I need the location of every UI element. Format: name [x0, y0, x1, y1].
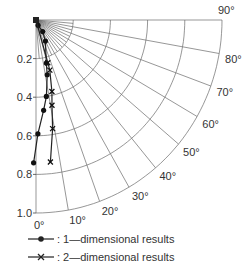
angular-tick-label: 80° — [225, 53, 242, 65]
dot-marker-icon — [40, 29, 45, 34]
radial-tick-label: 0.6 — [17, 130, 32, 142]
angular-tick-label: 10° — [69, 214, 86, 226]
angular-tick-label: 70° — [216, 86, 233, 98]
radial-tick-label: 1.0 — [17, 207, 32, 219]
dot-marker-icon — [43, 38, 48, 43]
angular-tick-label: 30° — [132, 190, 149, 202]
angular-tick-label: 50° — [183, 146, 200, 158]
angular-tick-label: 60° — [202, 118, 219, 130]
legend-label-1d: : 1—dimensional results — [57, 233, 174, 245]
legend-label-2d: : 2—dimensional results — [57, 251, 174, 263]
dot-marker-icon — [44, 94, 49, 99]
dot-marker-icon — [28, 234, 54, 244]
angular-tick-label: 40° — [159, 170, 176, 182]
angular-tick-label: 20° — [102, 205, 119, 217]
dot-marker-icon — [31, 160, 36, 165]
radial-tick-label: 0.4 — [17, 91, 32, 103]
angular-spoke — [36, 20, 178, 144]
polar-grid — [33, 17, 222, 213]
legend-item-1d: : 1—dimensional results — [28, 233, 174, 245]
radial-tick-label: 0.8 — [17, 168, 32, 180]
dot-marker-icon — [45, 72, 50, 77]
angular-tick-label: 90° — [218, 4, 235, 16]
radial-tick-label: 0.2 — [17, 53, 32, 65]
x-marker-icon — [28, 252, 54, 262]
angular-tick-label: 0° — [34, 219, 45, 231]
legend-item-2d: : 2—dimensional results — [28, 251, 174, 263]
data-series — [31, 20, 55, 165]
polar-chart: 0.20.40.60.81.00°10°20°30°40°50°60°70°80… — [0, 0, 251, 270]
dot-marker-icon — [35, 131, 40, 136]
dot-marker-icon — [41, 108, 46, 113]
